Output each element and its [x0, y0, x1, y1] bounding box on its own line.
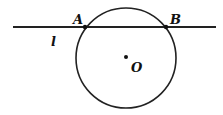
label-line-l: l [51, 34, 56, 49]
point-a [83, 25, 87, 29]
geometry-diagram: A B l O [0, 0, 223, 115]
label-a: A [71, 12, 83, 27]
label-b: B [169, 12, 181, 27]
label-center-o: O [131, 60, 143, 75]
point-b [164, 25, 168, 29]
center-point-o [124, 55, 128, 59]
